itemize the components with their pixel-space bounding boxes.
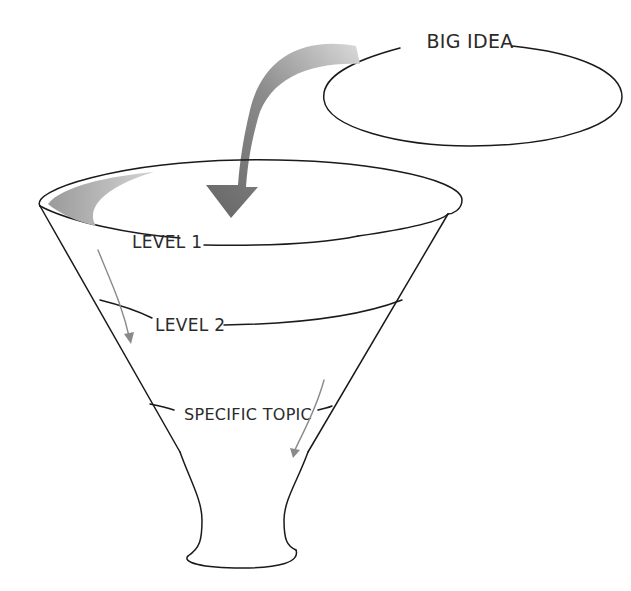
funnel-rim (39, 160, 462, 238)
rim-shadow (48, 172, 154, 226)
level-1-label: LEVEL 1 (132, 232, 202, 252)
big-arrow-icon (206, 44, 360, 218)
level-2-label: LEVEL 2 (155, 315, 225, 335)
big-idea-label: BIG IDEA (426, 30, 513, 52)
big-idea-bubble: BIG IDEA (324, 30, 622, 146)
specific-topic-label: SPECIFIC TOPIC (184, 405, 312, 424)
funnel-diagram: BIG IDEA LEVEL 1 LEVEL 2 SPECIFIC TOPIC (0, 0, 631, 591)
funnel-stem (180, 452, 308, 568)
funnel-right-side (308, 214, 448, 452)
thin-arrow-left-icon (98, 250, 134, 344)
